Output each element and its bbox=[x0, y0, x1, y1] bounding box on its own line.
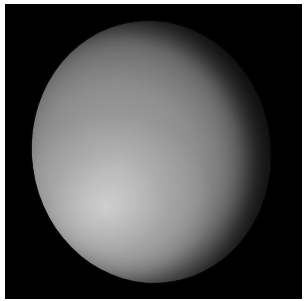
image-frame: planet disk bbox=[5, 4, 302, 299]
planet-disk bbox=[15, 6, 287, 299]
